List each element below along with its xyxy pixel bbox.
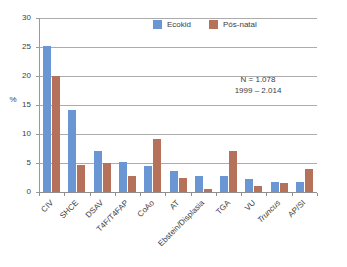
x-tick-mark [292,193,293,196]
bar [68,110,76,192]
bar [220,176,228,192]
annotation-line-2: 1999 – 2.014 [208,85,308,96]
bar [144,166,152,192]
y-tick-label: 5 [9,159,31,167]
x-tick-mark [140,193,141,196]
y-tick-label: 30 [9,14,31,22]
x-tick-mark [241,193,242,196]
x-tick-mark [64,193,65,196]
bar-chart: % 051015202530 CIVSHCEDSAVT4F/T4FAPCoAoA… [0,0,347,267]
bar [179,178,187,193]
legend-label: Pós-natal [223,20,257,29]
legend-entry: Pós-natal [209,20,257,29]
bar [254,186,262,192]
bar [204,189,212,192]
bar [119,162,127,192]
bar [128,176,136,192]
bar [77,165,85,192]
x-tick-mark [115,193,116,196]
bar [153,139,161,192]
x-tick-mark [317,193,318,196]
bar [52,76,60,192]
x-tick-mark [216,193,217,196]
legend-swatch [153,20,162,29]
legend-swatch [209,20,218,29]
x-tick-mark [39,193,40,196]
bar [229,151,237,192]
bar [280,183,288,192]
bar [296,182,304,192]
y-tick-label: 25 [9,43,31,51]
x-tick-mark [90,193,91,196]
bar [245,179,253,192]
x-tick-mark [165,193,166,196]
x-tick-mark [266,193,267,196]
bar [94,151,102,192]
bar [305,169,313,192]
y-tick-label: 0 [9,188,31,196]
bar [271,182,279,192]
legend-entry: Ecokid [153,20,191,29]
bar [43,46,51,192]
x-tick-mark [191,193,192,196]
x-axis-line [39,192,317,193]
y-tick-label: 20 [9,72,31,80]
legend: EcokidPós-natal [153,20,257,29]
bar [195,176,203,192]
plot-area [39,18,317,192]
bar [103,163,111,192]
y-tick-label: 10 [9,130,31,138]
y-tick-label: 15 [9,101,31,109]
legend-label: Ecokid [167,20,191,29]
chart-annotation: N = 1.078 1999 – 2.014 [208,74,308,96]
annotation-line-1: N = 1.078 [208,74,308,85]
bar [170,171,178,192]
